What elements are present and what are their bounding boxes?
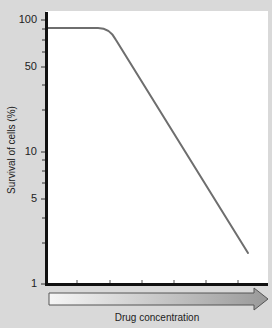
y-tick-100: 100 — [7, 13, 37, 25]
chart-figure: Survival of cells (%) 100 50 10 5 1 Drug… — [0, 0, 272, 328]
x-axis-label: Drug concentration — [46, 312, 268, 323]
y-tick-50: 50 — [7, 60, 37, 72]
survival-curve — [47, 28, 248, 253]
chart-svg — [0, 0, 272, 328]
y-tick-5: 5 — [7, 192, 37, 204]
concentration-arrow-icon — [49, 288, 268, 310]
y-tick-1: 1 — [7, 277, 37, 289]
y-tick-10: 10 — [7, 145, 37, 157]
